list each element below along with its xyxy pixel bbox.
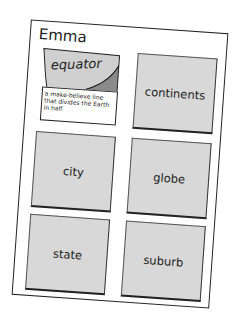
card-word: city	[62, 164, 84, 179]
flashcard-globe[interactable]: globe	[127, 138, 212, 219]
worksheet-paper: Emma equator a make-believe line that di…	[12, 19, 229, 308]
flashcard-state[interactable]: state	[25, 214, 110, 295]
flashcard-continents[interactable]: continents	[132, 53, 217, 134]
student-name: Emma	[38, 25, 87, 46]
card-word: continents	[144, 84, 205, 102]
flashcard-suburb[interactable]: suburb	[121, 221, 206, 302]
card-word: state	[53, 246, 83, 262]
card-word: suburb	[143, 252, 184, 269]
flashcard-equator[interactable]: equator a make-believe line that divides…	[37, 46, 122, 127]
card-word: equator	[51, 56, 102, 73]
card-word: globe	[153, 170, 186, 186]
card-definition: a make-believe line that divides the Ear…	[40, 86, 118, 125]
flashcard-city[interactable]: city	[31, 131, 116, 212]
